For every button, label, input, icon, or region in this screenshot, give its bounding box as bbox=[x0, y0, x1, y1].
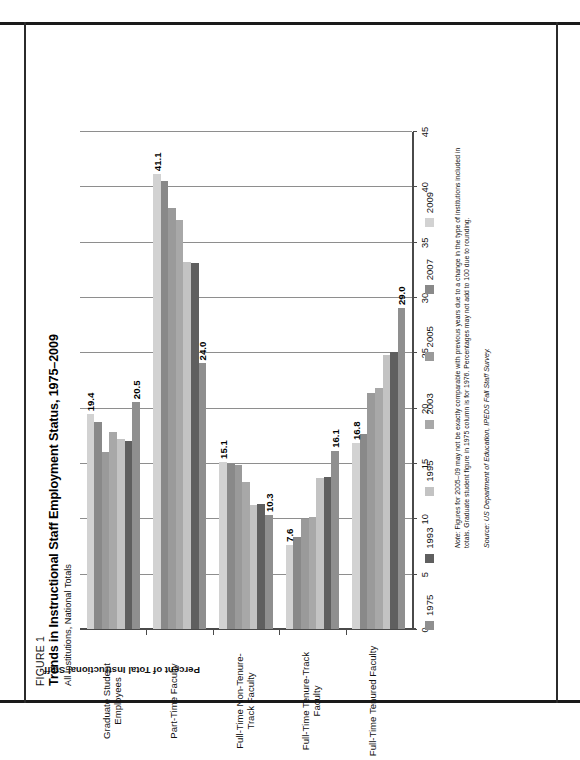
bar-2003 bbox=[375, 388, 383, 629]
figure-number: FIGURE 1 bbox=[34, 636, 46, 686]
bar-value-label: 10.3 bbox=[264, 493, 275, 512]
bar-1993 bbox=[257, 504, 265, 629]
bar-2009 bbox=[286, 545, 294, 629]
legend-label: 2007 bbox=[424, 259, 435, 280]
legend-label: 1993 bbox=[424, 528, 435, 549]
bar-2005 bbox=[168, 208, 176, 629]
category-label: Full-Time Tenure-Track Faculty bbox=[300, 642, 322, 760]
bar-2003 bbox=[109, 432, 117, 629]
bar-1995 bbox=[117, 439, 125, 629]
bar-1975 bbox=[132, 402, 140, 629]
legend-swatch bbox=[425, 218, 434, 227]
bar-value-label: 19.4 bbox=[85, 393, 96, 412]
group-separator bbox=[279, 630, 280, 635]
legend-swatch bbox=[425, 352, 434, 361]
legend-item-2005[interactable]: 2005 bbox=[424, 326, 435, 361]
legend-item-2003[interactable]: 2003 bbox=[424, 393, 435, 428]
bar-1975 bbox=[199, 363, 207, 629]
x-tick bbox=[413, 131, 417, 132]
x-axis-line bbox=[412, 132, 414, 630]
bar-2007 bbox=[293, 537, 301, 629]
figure-source: Source: US Department of Education, IPED… bbox=[482, 130, 491, 548]
bar-1995 bbox=[183, 262, 191, 629]
x-tick bbox=[413, 518, 417, 519]
gridline bbox=[80, 408, 412, 409]
page-edge-right bbox=[556, 22, 558, 703]
legend-swatch bbox=[425, 621, 434, 630]
legend-label: 1995 bbox=[424, 460, 435, 481]
bar-1993 bbox=[191, 263, 199, 629]
page-rule-top bbox=[0, 22, 580, 25]
x-tick bbox=[413, 186, 417, 187]
bar-2009 bbox=[219, 462, 227, 629]
group-separator bbox=[213, 630, 214, 635]
bar-2009 bbox=[87, 414, 95, 629]
legend-label: 2003 bbox=[424, 393, 435, 414]
bar-1975 bbox=[398, 308, 406, 629]
category-label: Part-Time Faculty bbox=[168, 642, 179, 760]
bar-2005 bbox=[235, 465, 243, 629]
x-tick bbox=[413, 463, 417, 464]
legend-item-2009[interactable]: 2009 bbox=[424, 192, 435, 227]
gridline bbox=[80, 131, 412, 132]
figure-note: Note: Figures for 2005–09 may not be exa… bbox=[454, 130, 471, 548]
group-separator bbox=[146, 630, 147, 635]
category-label: Graduate Student Employees bbox=[101, 642, 123, 760]
bar-2003 bbox=[242, 482, 250, 629]
bar-1993 bbox=[390, 352, 398, 629]
chart-legend: 1975199319952003200520072009 bbox=[424, 130, 442, 630]
bar-value-label: 7.6 bbox=[284, 529, 295, 542]
legend-label: 1975 bbox=[424, 595, 435, 616]
bar-value-label: 20.5 bbox=[131, 380, 142, 399]
bar-1995 bbox=[250, 505, 258, 629]
chart-plot-area: 051015202530354045 29.016.816.17.610.315… bbox=[80, 132, 412, 630]
bar-value-label: 16.8 bbox=[351, 421, 362, 440]
legend-item-1993[interactable]: 1993 bbox=[424, 528, 435, 563]
page-rule-bottom bbox=[0, 700, 580, 703]
gridline bbox=[80, 186, 412, 187]
legend-swatch bbox=[425, 420, 434, 429]
x-tick bbox=[413, 242, 417, 243]
bar-2009 bbox=[352, 443, 360, 629]
bar-2005 bbox=[301, 519, 309, 629]
page-edge-left bbox=[24, 22, 26, 703]
x-tick bbox=[413, 408, 417, 409]
x-tick bbox=[413, 574, 417, 575]
note-text: Figures for 2005–09 may not be exactly c… bbox=[454, 148, 470, 548]
bar-value-label: 15.1 bbox=[218, 440, 229, 459]
gridline bbox=[80, 242, 412, 243]
legend-swatch bbox=[425, 487, 434, 496]
legend-item-1975[interactable]: 1975 bbox=[424, 595, 435, 630]
figure-title: Trends in Instructional Staff Employment… bbox=[47, 334, 61, 686]
gridline bbox=[80, 352, 412, 353]
x-tick bbox=[413, 297, 417, 298]
rotated-figure-canvas: FIGURE 1 Trends in Instructional Staff E… bbox=[30, 34, 550, 694]
category-label: Full-Time Tenured Faculty bbox=[367, 642, 378, 760]
bar-1975 bbox=[265, 515, 273, 629]
legend-swatch bbox=[425, 554, 434, 563]
x-tick bbox=[413, 352, 417, 353]
bar-value-label: 16.1 bbox=[330, 429, 341, 448]
bar-2007 bbox=[360, 434, 368, 629]
bar-2005 bbox=[367, 393, 375, 629]
bar-2003 bbox=[176, 220, 184, 629]
bar-1995 bbox=[316, 479, 324, 630]
legend-swatch bbox=[425, 285, 434, 294]
legend-label: 2009 bbox=[424, 192, 435, 213]
legend-item-2007[interactable]: 2007 bbox=[424, 259, 435, 294]
bar-value-label: 29.0 bbox=[396, 286, 407, 305]
bar-value-label: 41.1 bbox=[152, 152, 163, 171]
bar-1975 bbox=[331, 451, 339, 629]
legend-item-1995[interactable]: 1995 bbox=[424, 460, 435, 495]
bar-2007 bbox=[161, 181, 169, 629]
note-prefix: Note: bbox=[454, 532, 461, 548]
bar-2009 bbox=[153, 174, 161, 629]
bar-2007 bbox=[227, 464, 235, 629]
bar-value-label: 24.0 bbox=[197, 342, 208, 361]
category-label: Full-Time Non-Tenure-Track Faculty bbox=[234, 642, 256, 760]
legend-label: 2005 bbox=[424, 326, 435, 347]
x-tick bbox=[413, 629, 417, 630]
bar-1993 bbox=[125, 441, 133, 629]
bar-1995 bbox=[383, 355, 391, 629]
